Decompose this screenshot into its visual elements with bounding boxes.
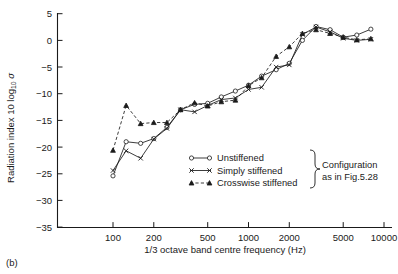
x-tick-label-500: 500 (200, 232, 216, 243)
y-tick-label-m5: −5 (41, 62, 52, 73)
data-point (287, 44, 292, 48)
x-tick-label-10000: 10000 (371, 232, 397, 243)
y-axis-title-prefix: Radiation index 10 log (5, 89, 16, 183)
y-axis-tick-labels: 5 0 −5 −10 −15 −20 −25 −30 −35 (36, 8, 52, 232)
series-simply-stiffened (111, 25, 373, 173)
panel-label: (b) (6, 257, 18, 268)
x-axis-ticks (113, 222, 384, 227)
axis-lines (58, 13, 393, 228)
x-tick-label-5000: 5000 (333, 232, 354, 243)
x-axis-title: 1/3 octave band centre frequency (Hz) (144, 244, 306, 255)
legend-item-crosswise-stiffened[interactable]: Crosswise stiffened (189, 178, 297, 188)
legend-label: Crosswise stiffened (217, 178, 297, 188)
data-point (138, 156, 142, 160)
x-tick-label-200: 200 (146, 232, 162, 243)
y-tick-label-m25: −25 (36, 168, 52, 179)
legend-item-simply-stiffened[interactable]: Simply stiffened (189, 166, 282, 176)
y-axis-ticks (58, 14, 63, 227)
y-tick-label-m15: −15 (36, 115, 52, 126)
data-point (233, 89, 237, 93)
legend-marker-left (189, 156, 193, 160)
series-crosswise-stiffened (111, 27, 374, 152)
legend-item-unstiffened[interactable]: Unstiffened (189, 153, 263, 163)
y-tick-label-m30: −30 (36, 195, 52, 206)
radiation-index-chart: Radiation index 10 log10 σ 5 0 −5 −10 −1… (0, 0, 398, 274)
annotation-line-2: as in Fig.5.28 (322, 172, 378, 182)
x-tick-label-1000: 1000 (238, 232, 259, 243)
y-axis-title-symbol: σ (5, 72, 16, 79)
data-point (274, 54, 279, 58)
y-axis-title: Radiation index 10 log10 σ (5, 72, 17, 183)
x-tick-label-2000: 2000 (279, 232, 300, 243)
configuration-annotation: Configuration as in Fig.5.28 (310, 150, 378, 188)
chart-legend: UnstiffenedSimply stiffenedCrosswise sti… (189, 153, 297, 188)
data-point (124, 149, 128, 153)
svg-text:Radiation index 10 log10 σ: Radiation index 10 log10 σ (5, 72, 17, 183)
y-tick-label-m35: −35 (36, 222, 52, 233)
x-tick-label-100: 100 (105, 232, 121, 243)
data-point (111, 168, 115, 172)
data-point (124, 140, 128, 144)
x-axis-tick-labels: 10020050010002000500010000 (105, 232, 397, 243)
data-point (124, 103, 129, 107)
legend-marker-right (207, 156, 211, 160)
data-point (369, 27, 373, 31)
annotation-line-1: Configuration (322, 160, 377, 170)
series-path (113, 30, 371, 151)
figure-panel-b: Radiation index 10 log10 σ 5 0 −5 −10 −1… (0, 0, 398, 274)
data-point (355, 33, 359, 37)
legend-label: Unstiffened (217, 153, 264, 163)
y-tick-label-5: 5 (47, 8, 52, 19)
y-tick-label-0: 0 (47, 35, 52, 46)
data-point (111, 174, 115, 178)
y-tick-label-m20: −20 (36, 142, 52, 153)
data-point (139, 141, 143, 145)
data-point (111, 148, 116, 152)
legend-label: Simply stiffened (217, 166, 282, 176)
series-path (113, 27, 371, 171)
y-tick-label-m10: −10 (36, 88, 52, 99)
